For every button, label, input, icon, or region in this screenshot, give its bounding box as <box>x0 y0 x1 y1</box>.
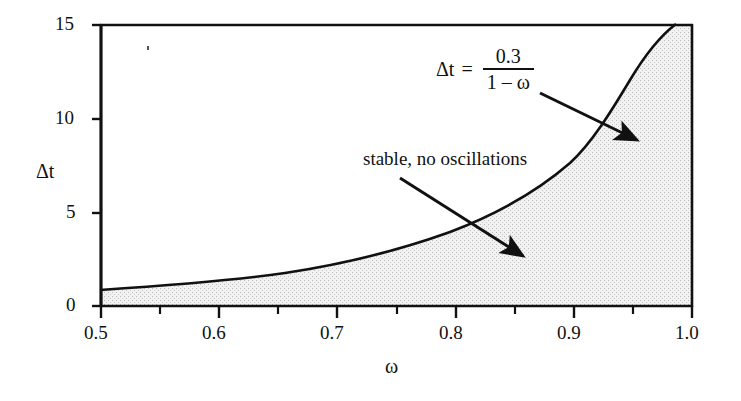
formula-denominator: 1 – ω <box>483 70 534 93</box>
x-axis-title: ω <box>385 355 398 378</box>
chart-figure: 15 10 5 0 0.5 0.6 0.7 0.8 0.9 1.0 Δt ω s… <box>0 0 741 401</box>
formula-fraction: 0.3 1 – ω <box>483 45 534 94</box>
x-tick-label-0-7: 0.7 <box>320 322 344 344</box>
formula-numerator: 0.3 <box>492 45 525 68</box>
x-tick-label-0-6: 0.6 <box>202 322 226 344</box>
y-tick-label-5: 5 <box>66 201 76 223</box>
x-axis-ticks <box>101 306 692 318</box>
x-tick-label-0-9: 0.9 <box>557 322 581 344</box>
annotation-formula: Δt = 0.3 1 – ω <box>436 45 534 94</box>
x-tick-label-0-8: 0.8 <box>439 322 463 344</box>
x-tick-label-0-5: 0.5 <box>84 322 108 344</box>
y-tick-label-10: 10 <box>55 107 74 129</box>
x-tick-label-1-0: 1.0 <box>675 322 699 344</box>
y-axis-title: Δt <box>36 160 54 183</box>
formula-left-hand-side: Δt <box>436 58 454 81</box>
y-tick-label-0: 0 <box>66 294 76 316</box>
plot-canvas <box>0 0 741 401</box>
annotation-stable-no-oscillations: stable, no oscillations <box>363 148 527 170</box>
y-tick-label-15: 15 <box>55 13 74 35</box>
scan-speck <box>147 46 149 50</box>
formula-equals-sign: = <box>461 58 472 81</box>
